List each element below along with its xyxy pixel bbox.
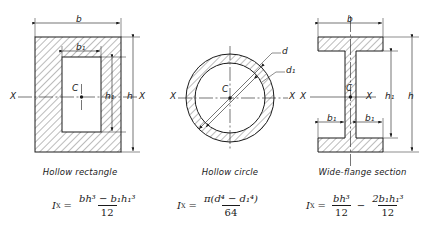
formula2-numerator: π(d⁴ − d₁⁴) [201,193,261,205]
caption-wide-flange: Wide-flange section [296,167,429,177]
formula1-fraction: bh³ − b₁h₁³ 12 [76,193,138,218]
wf-axis-label-right: X [366,92,372,101]
formula3-term2-denominator: 12 [378,205,397,218]
formula3-operator: − [355,200,367,211]
caption-hollow-circle: Hollow circle [170,167,290,177]
formula2-fraction: π(d⁴ − d₁⁴) 64 [201,193,261,218]
formula-wide-flange: IX = bh³ 12 − 2b₁h₁³ 12 [306,193,408,218]
wf-axis-label-left: X [300,92,306,101]
hollow-circle-drawing [178,46,288,150]
rect-dim-h1: h₁ [105,92,114,101]
rect-dim-h: h [127,92,133,101]
hollow-rectangle-drawing [18,18,140,152]
rect-axis-label-right: X [139,92,145,101]
formula1-equals: = [61,200,74,211]
rect-axis-label-left: X [10,92,16,101]
formula3-fraction-1: bh³ 12 [330,193,353,218]
formula1-denominator: 12 [98,205,117,218]
wf-dim-h: h [408,92,414,101]
formula3-fraction-2: 2b₁h₁³ 12 [369,193,406,218]
rect-dim-b: b [76,15,82,24]
formula-hollow-rectangle: IX = bh³ − b₁h₁³ 12 [52,193,140,218]
circle-axis-label-left: X [170,92,176,101]
formula1-numerator: bh³ − b₁h₁³ [76,193,138,205]
wf-dim-b1-left: b₁ [327,114,336,123]
formula3-term2-numerator: 2b₁h₁³ [369,193,406,205]
formula3-term1-numerator: bh³ [330,193,353,205]
formula2-denominator: 64 [222,205,241,218]
circle-axis-label-right: X [289,92,295,101]
formula3-equals: = [315,200,328,211]
circle-dim-d1: d₁ [286,66,295,75]
formula-hollow-circle: IX = π(d⁴ − d₁⁴) 64 [177,193,263,218]
circle-centroid-label: C [222,85,228,94]
wf-dim-h1: h₁ [385,92,394,101]
rect-centroid-label: C [72,84,78,93]
wide-flange-drawing [310,16,419,166]
wf-dim-b: b [347,15,353,24]
wf-dim-b1-right: b₁ [365,114,374,123]
rect-dim-b1: b₁ [76,43,85,52]
formula3-term1-denominator: 12 [332,205,351,218]
circle-dim-d: d [282,47,288,56]
wf-centroid-label: C [346,84,352,93]
formula2-equals: = [186,200,199,211]
caption-hollow-rectangle: Hollow rectangle [0,167,160,177]
